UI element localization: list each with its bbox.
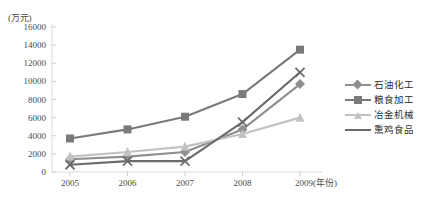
data-point-marker (239, 90, 247, 98)
legend-swatch-cross-icon (345, 124, 371, 136)
x-axis-tick-label: 2005 (61, 178, 79, 188)
x-axis-tick-label-text: 2009 (295, 178, 313, 188)
legend-marker-diamond-icon (353, 80, 363, 90)
line-chart: (万元) 16000140001200010000800060004000200… (0, 0, 425, 219)
legend-label: 粮食加工 (374, 95, 414, 106)
legend-marker-square-icon (354, 96, 362, 104)
data-point-marker (124, 125, 132, 133)
legend-label: 冶金机械 (374, 110, 414, 121)
series-line-1 (70, 50, 300, 139)
legend-item-2[interactable]: 冶金机械 (345, 108, 425, 122)
data-point-marker (181, 113, 189, 121)
x-axis-unit-label: (年份) (313, 178, 337, 188)
legend-item-0[interactable]: 石油化工 (345, 78, 425, 92)
legend-marker-triangle-icon (354, 112, 362, 119)
x-axis-tick-label: 2008 (234, 178, 252, 188)
data-point-marker (296, 68, 305, 77)
x-axis-tick-label: 2009(年份) (295, 178, 337, 188)
legend-label: 熏鸡食品 (374, 125, 414, 136)
data-point-marker (66, 134, 74, 142)
legend-line (345, 129, 371, 131)
x-axis-tick-label: 2007 (176, 178, 194, 188)
x-axis-tick-label: 2006 (119, 178, 137, 188)
data-point-marker (296, 46, 304, 54)
legend-swatch-triangle-icon (345, 109, 371, 121)
legend-label: 石油化工 (374, 80, 414, 91)
legend-item-3[interactable]: 熏鸡食品 (345, 123, 425, 137)
legend-swatch-square-icon (345, 94, 371, 106)
legend-swatch-diamond-icon (345, 79, 371, 91)
chart-legend: 石油化工粮食加工冶金机械熏鸡食品 (345, 78, 425, 138)
data-point-marker (296, 113, 305, 122)
legend-item-1[interactable]: 粮食加工 (345, 93, 425, 107)
